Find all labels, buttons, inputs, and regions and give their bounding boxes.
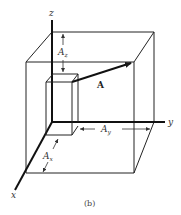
az-label: Az: [57, 47, 69, 58]
ay-label: Ay: [100, 124, 112, 136]
vector-a-label: A: [96, 80, 105, 90]
z-axis-label: z: [48, 8, 54, 18]
figure-caption: (b): [84, 199, 95, 208]
y-axis-label: y: [167, 117, 174, 127]
x-axis-label: x: [11, 190, 16, 200]
vector-components-diagram: z y x A Az Ay Ax (b): [0, 0, 181, 215]
ax-label: Ax: [42, 151, 54, 162]
coordinate-axes: [15, 20, 165, 190]
